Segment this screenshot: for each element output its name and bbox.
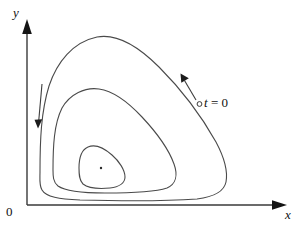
origin-label: 0 <box>6 205 13 218</box>
orbit-middle <box>53 89 176 193</box>
x-axis-label: x <box>285 208 291 221</box>
outer-orbit-flow-arrow <box>181 74 197 101</box>
y-axis <box>22 19 32 205</box>
x-axis <box>27 200 287 210</box>
phase-plane-figure: y x 0 t = 0 <box>0 0 298 233</box>
equilibrium-center-dot <box>100 167 102 169</box>
left-flow-arrow-shaft <box>39 84 42 120</box>
phase-plane-canvas <box>0 0 298 233</box>
t-zero-value: 0 <box>221 95 228 110</box>
t-zero-start-marker <box>197 102 202 107</box>
t-zero-annotation-label: t = 0 <box>204 96 228 109</box>
orbit-inner <box>79 146 125 188</box>
y-axis-label: y <box>13 6 19 19</box>
y-axis-arrowhead-icon <box>22 19 32 34</box>
left-branch-flow-arrow <box>35 84 43 129</box>
orbit-outer <box>40 36 227 200</box>
t-zero-equals: = <box>208 95 222 110</box>
